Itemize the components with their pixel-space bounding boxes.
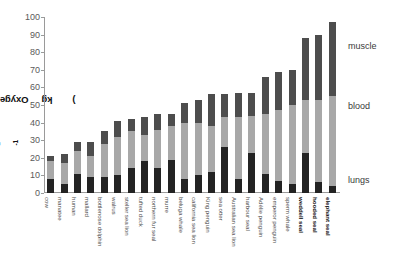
- y-axis-tick-label: 90: [30, 30, 40, 40]
- x-axis-label: murre: [164, 197, 171, 213]
- stacked-bar[interactable]: [154, 114, 161, 193]
- x-axis-label-slot: King penguin: [205, 195, 218, 265]
- y-axis-title-superscript: -1: [13, 140, 20, 146]
- bar-segment-muscle: [208, 94, 215, 126]
- bar-slot: [138, 17, 151, 193]
- x-axis-label-slot: human: [71, 195, 84, 265]
- stacked-bar[interactable]: [329, 22, 336, 193]
- x-axis-label-slot: sperm whale: [285, 195, 298, 265]
- stacked-bar[interactable]: [208, 94, 215, 193]
- stacked-bar[interactable]: [302, 38, 309, 193]
- oxygen-stores-bar-chart: Oxygen stores (ml O2 kg-1) 0102030405060…: [0, 0, 409, 266]
- bar-slot: [232, 17, 245, 193]
- bar-segment-muscle: [114, 121, 121, 137]
- bar-segment-blood: [141, 135, 148, 161]
- x-axis-label: california sea lion: [191, 197, 198, 244]
- bar-segment-muscle: [74, 142, 81, 151]
- stacked-bar[interactable]: [87, 142, 94, 193]
- x-axis-label-slot: bottlenose dolphin: [98, 195, 111, 265]
- bar-segment-blood: [248, 116, 255, 153]
- bar-slot: [124, 17, 137, 193]
- bar-slot: [151, 17, 164, 193]
- bar-segment-muscle: [248, 93, 255, 116]
- y-axis-tick-label: 60: [30, 82, 40, 92]
- bar-segment-blood: [235, 117, 242, 179]
- bar-slot: [245, 17, 258, 193]
- x-axis-label-slot: Adélie penguin: [259, 195, 272, 265]
- bar-slot: [312, 17, 325, 193]
- y-axis-tick-label: 20: [30, 153, 40, 163]
- x-axis-label: weddell seal: [298, 197, 305, 233]
- stacked-bar[interactable]: [248, 93, 255, 193]
- x-axis-label: Adélie penguin: [258, 197, 265, 237]
- bar-segment-lungs: [181, 179, 188, 193]
- bar-slot: [259, 17, 272, 193]
- bar-segment-muscle: [302, 38, 309, 100]
- bar-segment-blood: [128, 131, 135, 168]
- bar-segment-blood: [114, 137, 121, 176]
- x-axis-label: beluga whale: [178, 197, 185, 233]
- x-axis-label-slot: elephant seal: [326, 195, 339, 265]
- stacked-bar[interactable]: [74, 142, 81, 193]
- x-axis-label: manatee: [57, 197, 64, 221]
- y-axis-tick-label: 100: [25, 12, 40, 22]
- x-axis-label: human: [71, 197, 78, 216]
- bar-segment-muscle: [235, 93, 242, 118]
- x-axis-label: emperor penguin: [272, 197, 279, 243]
- x-axis-label: steller sea lion: [124, 197, 131, 236]
- x-axis-label: King penguin: [205, 197, 212, 233]
- bar-segment-muscle: [181, 103, 188, 122]
- bar-segment-lungs: [195, 175, 202, 193]
- bar-segment-blood: [154, 130, 161, 169]
- x-axis-label-slot: emperor penguin: [272, 195, 285, 265]
- bar-segment-muscle: [128, 119, 135, 131]
- stacked-bar[interactable]: [275, 72, 282, 193]
- y-axis-tick-label: 30: [30, 135, 40, 145]
- legend-item-lungs: lungs: [348, 175, 370, 185]
- bar-segment-muscle: [154, 114, 161, 130]
- x-axis-label-slot: weddell seal: [299, 195, 312, 265]
- bar-slot: [84, 17, 97, 193]
- y-axis-tick-label: 0: [35, 188, 40, 198]
- bar-segment-muscle: [141, 117, 148, 135]
- stacked-bar[interactable]: [61, 154, 68, 193]
- stacked-bar[interactable]: [128, 119, 135, 193]
- bar-segment-lungs: [154, 168, 161, 193]
- bar-slot: [71, 17, 84, 193]
- x-axis-label-slot: mallard: [84, 195, 97, 265]
- bar-segment-muscle: [101, 131, 108, 143]
- bar-segment-lungs: [61, 184, 68, 193]
- bar-slot: [205, 17, 218, 193]
- bar-segment-muscle: [87, 142, 94, 156]
- x-axis-label: harbour seal: [245, 197, 252, 231]
- x-axis-label: mallard: [84, 197, 91, 217]
- stacked-bar[interactable]: [221, 94, 228, 193]
- stacked-bar[interactable]: [168, 114, 175, 193]
- stacked-bar[interactable]: [114, 121, 121, 193]
- bar-segment-blood: [302, 100, 309, 153]
- bar-segment-lungs: [47, 179, 54, 193]
- bar-segment-lungs: [275, 181, 282, 193]
- stacked-bar[interactable]: [101, 131, 108, 193]
- stacked-bar[interactable]: [195, 100, 202, 193]
- stacked-bar[interactable]: [47, 156, 54, 193]
- y-axis-tick-mark: [41, 193, 44, 194]
- x-axis-label-slot: sea otter: [218, 195, 231, 265]
- x-axis-label-slot: northern fur seal: [151, 195, 164, 265]
- stacked-bar[interactable]: [141, 117, 148, 193]
- bar-segment-muscle: [315, 35, 322, 100]
- stacked-bar[interactable]: [262, 77, 269, 193]
- x-axis-label: tufted duck: [138, 197, 145, 227]
- stacked-bar[interactable]: [235, 93, 242, 193]
- bar-segment-lungs: [74, 174, 81, 193]
- bar-segment-blood: [262, 114, 269, 174]
- stacked-bar[interactable]: [315, 35, 322, 193]
- stacked-bar[interactable]: [181, 103, 188, 193]
- bar-segment-blood: [47, 161, 54, 179]
- y-axis-tick-label: 80: [30, 47, 40, 57]
- bar-slot: [218, 17, 231, 193]
- y-axis-tick-label: 10: [30, 170, 40, 180]
- bar-slot: [178, 17, 191, 193]
- stacked-bar[interactable]: [289, 70, 296, 193]
- bar-segment-blood: [181, 123, 188, 179]
